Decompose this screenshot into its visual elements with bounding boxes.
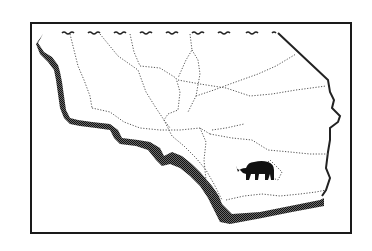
- map-canvas: [0, 0, 372, 251]
